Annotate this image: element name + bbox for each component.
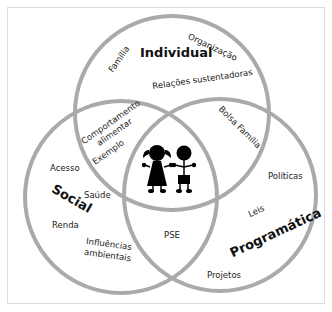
children-icon xyxy=(142,145,196,193)
label-renda: Renda xyxy=(52,221,79,230)
set-title-individual: Individual xyxy=(140,46,213,59)
label-saude: Saúde xyxy=(84,191,111,200)
label-pse: PSE xyxy=(164,231,180,240)
label-acesso: Acesso xyxy=(50,164,80,173)
label-projetos: Projetos xyxy=(207,271,241,280)
label-politicas: Políticas xyxy=(268,172,303,181)
